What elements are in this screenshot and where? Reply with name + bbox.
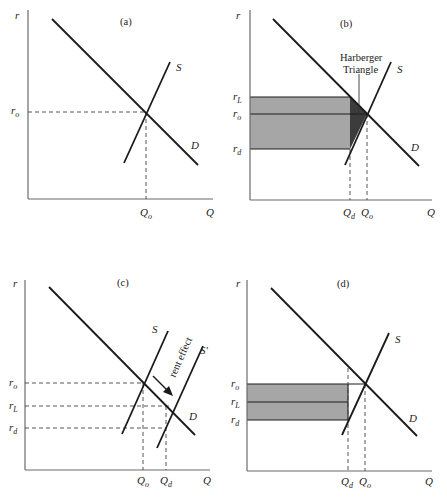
panel-a: r (a) S D ro Qo Q: [11, 9, 214, 221]
demand-curve: [52, 19, 198, 165]
qo-label: Qo: [140, 206, 152, 221]
demand-label: D: [188, 410, 197, 422]
panel-label: (d): [337, 278, 350, 290]
ro-label: ro: [231, 377, 239, 392]
demand-label: D: [190, 139, 199, 151]
ro-label: ro: [9, 376, 17, 391]
qo-label: Qo: [359, 475, 371, 490]
shaded-transfer-area: [250, 97, 350, 149]
harberger-label-line1: Harberger: [340, 52, 383, 63]
panel-b: r (b) Harberger Triangle S D rL ro rd Qd…: [233, 9, 435, 221]
rl-label: rL: [231, 395, 240, 410]
supply-demand-figure: r (a) S D ro Qo Q r (b) Harberger Triang…: [0, 0, 447, 500]
supply-label: S: [395, 333, 401, 345]
qd-label: Qd: [341, 475, 354, 490]
rd-label: rd: [231, 413, 240, 428]
rd-label: rd: [233, 142, 242, 157]
supply-label: S: [176, 61, 182, 73]
shifted-supply-label: S': [200, 344, 209, 356]
x-axis-label: Q: [203, 474, 211, 486]
y-axis-label: r: [15, 9, 20, 21]
panel-label: (a): [120, 16, 132, 28]
y-axis-label: r: [236, 277, 241, 289]
qo-label: Qo: [361, 206, 373, 221]
supply-curve: [124, 62, 170, 163]
supply-label: S: [397, 63, 403, 75]
qd-label: Qd: [160, 474, 173, 489]
y-axis-label: r: [236, 9, 241, 21]
harberger-label-line2: Triangle: [343, 64, 379, 75]
rent-effect-arrow: [153, 376, 173, 396]
ro-label: ro: [11, 104, 19, 119]
panel-label: (b): [340, 18, 353, 30]
x-axis-label: Q: [206, 206, 214, 218]
panel-d: r (d) S D ro rL rd Qd Qo Q: [231, 277, 433, 490]
rl-label: rL: [233, 90, 242, 105]
rl-label: rL: [9, 399, 18, 414]
panel-c: r (c) S S' D rent effect ro rL rd Qo Qd …: [9, 277, 211, 489]
rent-effect-label: rent effect: [167, 335, 194, 379]
demand-label: D: [408, 412, 417, 424]
qd-label: Qd: [343, 206, 356, 221]
y-axis-label: r: [13, 277, 18, 289]
panel-label: (c): [117, 277, 129, 289]
qo-label: Qo: [137, 474, 149, 489]
rd-label: rd: [9, 421, 18, 436]
demand-label: D: [410, 141, 419, 153]
x-axis-label: Q: [425, 475, 433, 487]
x-axis-label: Q: [427, 206, 435, 218]
supply-curve: [122, 331, 168, 434]
ro-label: ro: [233, 107, 241, 122]
supply-label: S: [152, 323, 158, 335]
